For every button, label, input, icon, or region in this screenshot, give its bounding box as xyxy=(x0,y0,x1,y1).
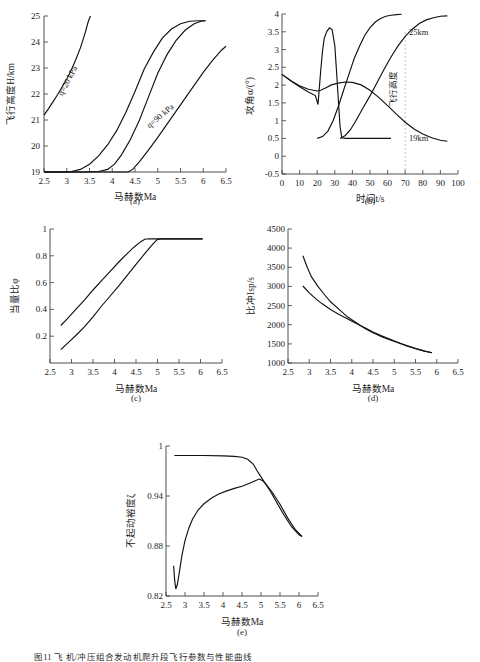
xtick-label: 50 xyxy=(366,178,376,188)
annotation-25km: 25km xyxy=(409,27,429,37)
xtick-label: 30 xyxy=(330,178,340,188)
curve-phi-upper xyxy=(61,239,203,326)
xtick-label: 4.5 xyxy=(236,600,248,610)
ytick-label: 0 xyxy=(275,151,280,161)
chart-b-svg: -0.5 0 0.5 1 1.5 2 2.5 3 3.5 4 0 10 20 3… xyxy=(240,4,480,204)
xtick-label: 2.5 xyxy=(44,367,56,377)
chart-e-yaxis-title: 不起动裕度ζ xyxy=(125,494,137,548)
xtick-label: 60 xyxy=(383,178,393,188)
chart-c-axes xyxy=(50,229,222,363)
chart-c-ytick-labels: 0.2 0.4 0.6 0.8 1 xyxy=(36,224,48,341)
xtick-label: 6 xyxy=(201,176,206,186)
xtick-label: 4 xyxy=(110,176,115,186)
xtick-label: 3 xyxy=(69,367,74,377)
xtick-label: 6 xyxy=(297,600,302,610)
annotation-q90: q=90 kPa xyxy=(144,101,175,130)
xtick-label: 20 xyxy=(313,178,323,188)
annotation-19km: 19km xyxy=(409,133,429,143)
chart-d-xtick-labels: 2.5 3 3.5 4 4.5 5 5.5 6 6.5 xyxy=(282,367,464,377)
panel-label-a: (a) xyxy=(115,196,155,206)
panel-label-e: (e) xyxy=(222,627,262,637)
panel-label-d: (d) xyxy=(353,393,393,403)
ytick-label: 1 xyxy=(159,441,164,451)
ytick-label: 2 xyxy=(275,80,280,90)
xtick-label: 100 xyxy=(451,178,465,188)
ytick-label: 4000 xyxy=(267,243,286,253)
chart-panel-a: 19 20 21 22 23 24 25 2.5 3 3.5 4 4.5 5 5… xyxy=(0,4,240,204)
xtick-label: 70 xyxy=(401,178,411,188)
xtick-label: 6.5 xyxy=(216,367,228,377)
chart-b-annotations: 25km 19km 飞行高度 xyxy=(388,27,429,144)
chart-c-svg: 0.2 0.4 0.6 0.8 1 2.5 3 3.5 4 4.5 5 5.5 … xyxy=(0,215,240,411)
panel-label-b: (b) xyxy=(350,196,390,206)
ytick-label: 23 xyxy=(31,63,41,73)
panel-label-c: (c) xyxy=(116,393,156,403)
xtick-label: 80 xyxy=(418,178,428,188)
xtick-label: 6.5 xyxy=(452,367,464,377)
chart-a-svg: 19 20 21 22 23 24 25 2.5 3 3.5 4 4.5 5 5… xyxy=(0,4,240,204)
chart-a-axes xyxy=(44,16,226,172)
chart-d-ytick-labels: 1000 1500 2000 2500 3000 3500 4000 4500 xyxy=(267,224,286,368)
chart-e-curves xyxy=(174,456,302,590)
ytick-label: 2000 xyxy=(267,320,286,330)
chart-e-axes xyxy=(166,446,318,596)
chart-c-xtick-labels: 2.5 3 3.5 4 4.5 5 5.5 6 6.5 xyxy=(44,367,228,377)
curve-phi-lower xyxy=(61,239,203,350)
ytick-label: 2500 xyxy=(267,301,286,311)
xtick-label: 3 xyxy=(307,367,312,377)
xtick-label: 5.5 xyxy=(274,600,286,610)
xtick-label: 5 xyxy=(392,367,397,377)
xtick-label: 3.5 xyxy=(87,367,99,377)
xtick-label: 3.5 xyxy=(325,367,337,377)
ytick-label: 24 xyxy=(31,37,41,47)
chart-e-xtick-labels: 2.5 3 3.5 4 4.5 5 5.5 6 6.5 xyxy=(160,600,324,610)
ytick-label: 2.5 xyxy=(268,62,280,72)
curve-trajectory-2 xyxy=(44,21,206,172)
ytick-label: 0.5 xyxy=(268,133,280,143)
xtick-label: 3.5 xyxy=(84,176,96,186)
ytick-label: 20 xyxy=(31,141,41,151)
chart-panel-c: 0.2 0.4 0.6 0.8 1 2.5 3 3.5 4 4.5 5 5.5 … xyxy=(0,215,240,411)
xtick-label: 4.5 xyxy=(130,367,142,377)
annotation-flight-altitude: 飞行高度 xyxy=(388,71,398,107)
chart-b-xtick-labels: 0 10 20 30 40 50 60 70 80 90 100 xyxy=(280,178,466,188)
chart-e-xaxis-title: 马赫数Ma xyxy=(221,616,264,627)
ytick-label: 4 xyxy=(275,9,280,19)
xtick-label: 6 xyxy=(435,367,440,377)
chart-a-yaxis-title: 飞行高度H/km xyxy=(5,63,16,125)
xtick-label: 40 xyxy=(348,178,358,188)
xtick-label: 0 xyxy=(280,178,285,188)
xtick-label: 4.5 xyxy=(367,367,379,377)
xtick-label: 6.5 xyxy=(312,600,324,610)
curve-alpha-broad-hump xyxy=(282,74,447,141)
ytick-label: 22 xyxy=(31,89,40,99)
xtick-label: 6 xyxy=(198,367,203,377)
chart-a-ytick-labels: 19 20 21 22 23 24 25 xyxy=(31,11,41,177)
ytick-label: 1 xyxy=(275,116,280,126)
ytick-label: 4500 xyxy=(267,224,286,234)
chart-d-curves xyxy=(303,256,432,353)
ytick-label: 0.94 xyxy=(147,491,163,501)
curve-zeta-rising-lower xyxy=(174,479,302,589)
xtick-label: 2.5 xyxy=(38,176,50,186)
ytick-label: 3 xyxy=(275,45,280,55)
xtick-label: 3 xyxy=(65,176,70,186)
xtick-label: 4 xyxy=(221,600,226,610)
xtick-label: 10 xyxy=(295,178,305,188)
chart-panel-e: 0.82 0.88 0.94 1 2.5 3 3.5 4 4.5 5 5.5 6… xyxy=(118,424,358,646)
chart-d-svg: 1000 1500 2000 2500 3000 3500 4000 4500 … xyxy=(240,215,480,411)
ytick-label: 3000 xyxy=(267,281,286,291)
xtick-label: 2.5 xyxy=(282,367,294,377)
curve-zeta-flat-upper xyxy=(174,456,302,537)
chart-b-ytick-labels: -0.5 0 0.5 1 1.5 2 2.5 3 3.5 4 xyxy=(265,9,280,179)
xtick-label: 6.5 xyxy=(220,176,232,186)
ytick-label: -0.5 xyxy=(265,169,280,179)
curve-q20-boundary xyxy=(44,16,90,115)
xtick-label: 4 xyxy=(112,367,117,377)
ytick-label: 3500 xyxy=(267,262,286,272)
chart-b-yaxis-title: 攻角α/(°) xyxy=(244,77,256,115)
curve-isp-lower xyxy=(303,286,432,353)
xtick-label: 5.5 xyxy=(173,367,185,377)
xtick-label: 3.5 xyxy=(198,600,210,610)
